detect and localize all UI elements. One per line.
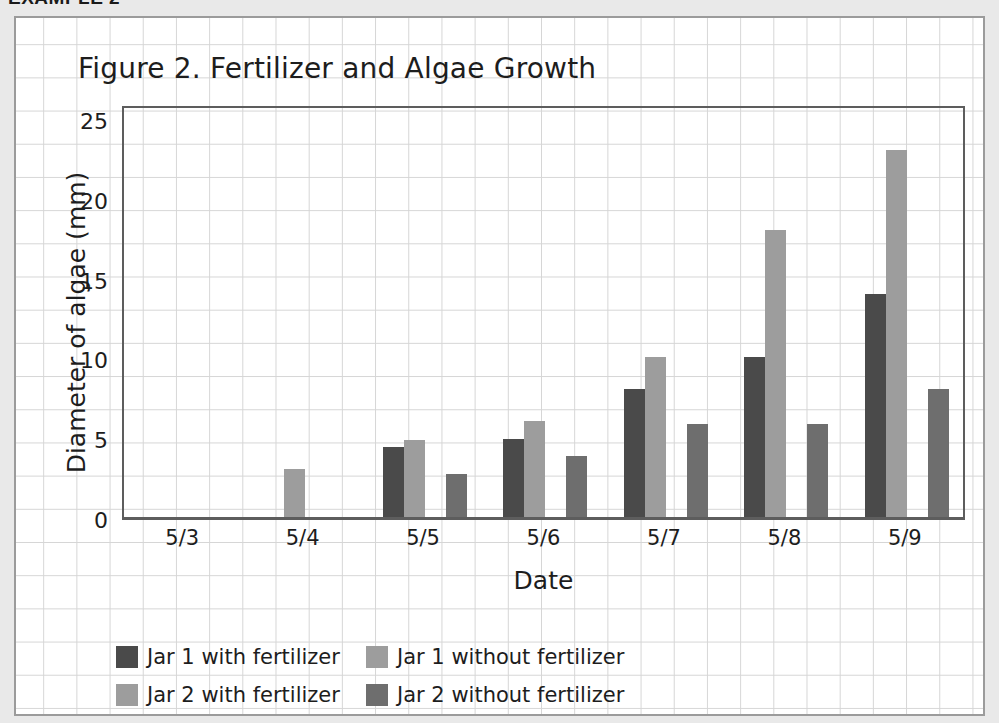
legend-item: Jar 2 with fertilizer [116, 683, 366, 707]
bar [284, 469, 305, 517]
bar [765, 230, 786, 517]
x-tick-label: 5/4 [286, 526, 320, 550]
bar-group [124, 118, 244, 517]
legend-swatch [116, 684, 138, 706]
bar-group [244, 118, 364, 517]
bar [446, 474, 467, 517]
y-axis-ticks: 0510152025 [16, 106, 116, 520]
bar [624, 389, 645, 517]
cut-off-heading-text: EXAMPLE 2 [8, 0, 120, 9]
y-tick-label: 25 [80, 109, 108, 134]
chart-title: Figure 2. Fertilizer and Algae Growth [78, 52, 596, 85]
bar-group [606, 118, 726, 517]
bar [886, 150, 907, 517]
legend-swatch [366, 684, 388, 706]
legend-label: Jar 1 with fertilizer [147, 645, 340, 669]
bar [566, 456, 587, 517]
legend-item: Jar 2 without fertilizer [366, 683, 656, 707]
legend-label: Jar 2 without fertilizer [397, 683, 624, 707]
legend-item: Jar 1 without fertilizer [366, 645, 656, 669]
bar [503, 439, 524, 517]
x-axis-ticks: 5/35/45/55/65/75/85/9 [122, 526, 965, 560]
bar [404, 440, 425, 517]
bar [865, 294, 886, 517]
figure-frame: Figure 2. Fertilizer and Algae Growth Di… [14, 16, 985, 716]
bar [645, 357, 666, 517]
y-tick-label: 20 [80, 188, 108, 213]
bar-group [726, 118, 846, 517]
bar [744, 357, 765, 517]
bar [928, 389, 949, 517]
legend-item: Jar 1 with fertilizer [116, 645, 366, 669]
bar [524, 421, 545, 517]
x-tick-label: 5/3 [165, 526, 199, 550]
x-tick-label: 5/6 [527, 526, 561, 550]
legend-label: Jar 1 without fertilizer [397, 645, 624, 669]
bars-container [124, 118, 963, 517]
x-tick-label: 5/7 [647, 526, 681, 550]
x-tick-label: 5/5 [406, 526, 440, 550]
bar [687, 424, 708, 517]
bar-group [365, 118, 485, 517]
y-tick-label: 5 [94, 428, 108, 453]
bar-group [847, 118, 967, 517]
chart-legend: Jar 1 with fertilizerJar 1 without ferti… [116, 638, 816, 714]
legend-swatch [366, 646, 388, 668]
cut-off-heading-strip: EXAMPLE 2 [0, 0, 999, 10]
x-tick-label: 5/8 [767, 526, 801, 550]
legend-swatch [116, 646, 138, 668]
y-tick-label: 0 [94, 508, 108, 533]
bar-group [485, 118, 605, 517]
bar [383, 447, 404, 517]
x-axis-label: Date [122, 566, 965, 595]
legend-label: Jar 2 with fertilizer [147, 683, 340, 707]
y-tick-label: 10 [80, 348, 108, 373]
bar [807, 424, 828, 517]
x-tick-label: 5/9 [888, 526, 922, 550]
y-tick-label: 15 [80, 268, 108, 293]
plot-area [122, 106, 965, 520]
